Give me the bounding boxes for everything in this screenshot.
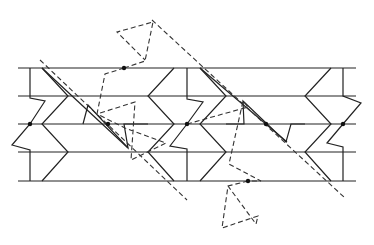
dashed-squares <box>97 22 261 228</box>
dashed-axes <box>40 20 345 200</box>
frieze-diagram <box>0 0 374 245</box>
glide-pieces <box>42 68 305 148</box>
